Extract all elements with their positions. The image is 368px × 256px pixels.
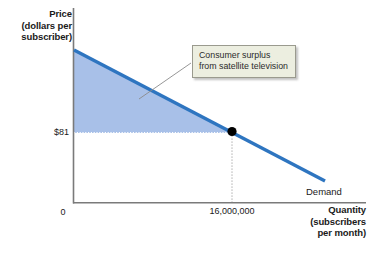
consumer-surplus-callout: Consumer surplus from satellite televisi… xyxy=(192,45,296,78)
callout-text: Consumer surplus from satellite televisi… xyxy=(199,50,290,72)
equilibrium-point xyxy=(227,127,236,136)
x-axis-tick-quantity: 16,000,000 xyxy=(192,206,272,217)
origin-label: 0 xyxy=(56,207,70,218)
consumer-surplus-diagram: Price (dollars per subscriber) Quantity … xyxy=(0,0,368,256)
demand-curve-label: Demand xyxy=(306,186,342,197)
callout-leader-line xyxy=(139,63,191,99)
y-axis-title: Price (dollars per subscriber) xyxy=(0,8,72,43)
x-axis-title: Quantity (subscribers per month) xyxy=(258,204,366,239)
y-axis-tick-price: $81 xyxy=(40,127,69,138)
